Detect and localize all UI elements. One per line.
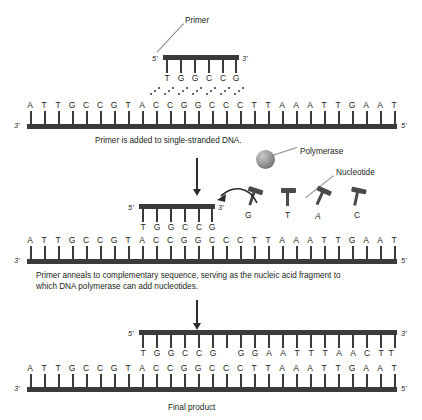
template-base: A bbox=[304, 99, 316, 111]
template-base: G bbox=[108, 99, 120, 111]
template-base: T bbox=[38, 362, 50, 374]
panel2-template-3prime: 3' bbox=[14, 256, 20, 265]
template-base: C bbox=[220, 99, 232, 111]
template-base: G bbox=[108, 362, 120, 374]
template-base: C bbox=[220, 234, 232, 246]
template-backbone bbox=[27, 124, 397, 129]
template-base: T bbox=[122, 99, 134, 111]
panel1-caption: Primer is added to single-stranded DNA. bbox=[95, 135, 242, 147]
template-base: A bbox=[304, 362, 316, 374]
template-base: T bbox=[122, 362, 134, 374]
primer-base: G bbox=[165, 221, 177, 233]
free-nucleotide-c-label: C bbox=[354, 210, 360, 220]
template-base: T bbox=[248, 99, 260, 111]
panel2-caption-line2: which DNA polymerase can add nucleotides… bbox=[36, 281, 198, 293]
template-base: G bbox=[346, 99, 358, 111]
template-base: C bbox=[80, 362, 92, 374]
template-base: A bbox=[374, 362, 386, 374]
panel3-new-strand-3prime: 3' bbox=[401, 329, 407, 338]
template-base: T bbox=[332, 99, 344, 111]
template-base: T bbox=[262, 362, 274, 374]
primer-base: G bbox=[175, 72, 187, 84]
new-strand-base: A bbox=[333, 347, 345, 359]
new-strand-base: T bbox=[137, 347, 149, 359]
template-base: C bbox=[234, 234, 246, 246]
template-base: G bbox=[346, 234, 358, 246]
template-base: T bbox=[248, 362, 260, 374]
template-base: A bbox=[136, 362, 148, 374]
template-base: C bbox=[94, 362, 106, 374]
panel2-template-strand bbox=[27, 246, 397, 264]
template-base: A bbox=[304, 234, 316, 246]
template-base: A bbox=[374, 99, 386, 111]
panel1-template-3prime: 3' bbox=[14, 121, 20, 130]
panel3-template-3prime: 3' bbox=[14, 384, 20, 393]
template-base: A bbox=[290, 99, 302, 111]
template-base: C bbox=[94, 234, 106, 246]
primer-base: C bbox=[203, 72, 215, 84]
template-ticks bbox=[27, 246, 397, 259]
template-base: C bbox=[220, 362, 232, 374]
new-strand-base: G bbox=[207, 347, 219, 359]
template-base: G bbox=[192, 99, 204, 111]
template-base: A bbox=[276, 234, 288, 246]
nucleotide-label: Nucleotide bbox=[336, 168, 375, 177]
primer-base: C bbox=[217, 72, 229, 84]
new-strand-base: T bbox=[385, 347, 397, 359]
new-strand-base: C bbox=[193, 347, 205, 359]
panel1-primer-bases: T G G C C G bbox=[163, 72, 239, 84]
template-base: A bbox=[360, 234, 372, 246]
panel1-primer-3prime: 3' bbox=[242, 54, 248, 63]
template-base: C bbox=[94, 99, 106, 111]
template-ticks bbox=[27, 374, 397, 387]
template-base: T bbox=[332, 234, 344, 246]
template-base: C bbox=[164, 362, 176, 374]
template-base: T bbox=[318, 99, 330, 111]
template-base: C bbox=[150, 234, 162, 246]
template-base: C bbox=[234, 362, 246, 374]
polymerase-sphere bbox=[256, 150, 275, 169]
free-nucleotide-a-label: A bbox=[315, 211, 321, 221]
template-base: C bbox=[80, 234, 92, 246]
new-strand-base: A bbox=[347, 347, 359, 359]
template-base: A bbox=[276, 99, 288, 111]
primer-base: G bbox=[230, 72, 242, 84]
template-base: G bbox=[192, 362, 204, 374]
panel1-to-panel2-arrow bbox=[196, 158, 198, 190]
template-base: T bbox=[318, 234, 330, 246]
primer-base: C bbox=[179, 221, 191, 233]
panel1-hydrogen-bonds bbox=[150, 84, 255, 98]
primer-base: C bbox=[193, 221, 205, 233]
panel2-primer-5prime: 5' bbox=[128, 203, 134, 212]
template-base: A bbox=[24, 362, 36, 374]
panel1-template-bases: A T T G C C G T A C C G G C C C T T A A … bbox=[27, 99, 397, 111]
template-base: T bbox=[262, 234, 274, 246]
template-base: T bbox=[388, 99, 400, 111]
panel2-template-bases: A T T G C C G T A C C G G C C C T T A A … bbox=[27, 234, 397, 246]
template-base: G bbox=[178, 362, 190, 374]
polymerase-label: Polymerase bbox=[300, 147, 343, 156]
template-base: T bbox=[52, 362, 64, 374]
primer-base: G bbox=[151, 221, 163, 233]
primer-callout-label: Primer bbox=[185, 16, 209, 25]
template-base: T bbox=[332, 362, 344, 374]
panel3-template-5prime: 5' bbox=[401, 384, 407, 393]
template-base: T bbox=[388, 362, 400, 374]
free-nucleotide-c-icon bbox=[348, 187, 367, 208]
template-base: C bbox=[80, 99, 92, 111]
new-strand-base: G bbox=[165, 347, 177, 359]
new-strand-base: C bbox=[179, 347, 191, 359]
template-base: T bbox=[122, 234, 134, 246]
new-strand-base: T bbox=[319, 347, 331, 359]
panel1-template-strand bbox=[27, 111, 397, 129]
template-base: G bbox=[192, 234, 204, 246]
panel2-primer-bases: T G G C C G bbox=[139, 221, 215, 233]
template-base: A bbox=[290, 362, 302, 374]
template-base: G bbox=[178, 234, 190, 246]
template-base: A bbox=[136, 234, 148, 246]
panel3-new-strand-5prime: 5' bbox=[128, 329, 134, 338]
template-base: C bbox=[164, 234, 176, 246]
panel3-template-bases: A T T G C C G T A C C G G C C C T T A A … bbox=[27, 362, 397, 374]
template-ticks bbox=[27, 111, 397, 124]
panel2-to-panel3-arrow bbox=[196, 300, 198, 324]
